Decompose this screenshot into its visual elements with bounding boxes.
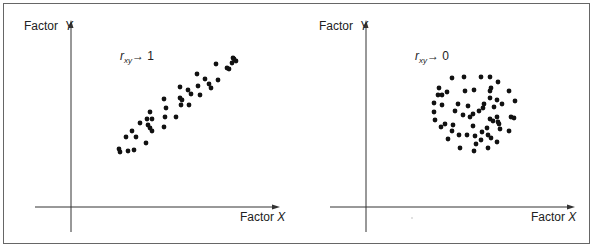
data-point (457, 133, 462, 138)
data-point (495, 98, 500, 103)
data-point (164, 106, 169, 111)
data-point (446, 137, 451, 142)
data-point (227, 67, 232, 72)
data-point (488, 96, 493, 101)
data-point (138, 121, 143, 126)
data-point (451, 123, 456, 128)
data-point (473, 134, 478, 139)
y-axis-label-text: Factor (319, 19, 353, 33)
data-point (443, 122, 448, 127)
data-point (472, 88, 477, 93)
data-point (179, 103, 184, 108)
corr-subscript: xy (419, 56, 427, 65)
data-point (453, 109, 458, 114)
right-correlation-label: rxy→ 0 (415, 49, 449, 65)
data-point (117, 147, 122, 152)
data-point (145, 117, 150, 122)
y-axis-label-text: Factor (24, 19, 58, 33)
data-point (437, 86, 442, 91)
data-point (432, 110, 437, 115)
stray-speck (411, 217, 413, 219)
data-point (512, 116, 517, 121)
data-point (232, 57, 237, 62)
data-point (198, 93, 203, 98)
data-point (178, 85, 183, 90)
data-point (474, 142, 479, 147)
data-point (150, 117, 155, 122)
data-point (130, 129, 135, 134)
data-point (174, 115, 179, 120)
right-panel (330, 20, 575, 232)
left-panel (35, 20, 280, 232)
arrow-right-icon: → (132, 49, 144, 63)
right-x-axis-arrow-icon (567, 205, 575, 210)
data-point (180, 98, 185, 103)
arrow-right-icon: → (427, 49, 439, 63)
data-point (498, 127, 503, 132)
data-point (500, 102, 505, 107)
data-point (195, 72, 200, 77)
data-point (134, 135, 139, 140)
left-x-axis-label: Factor X (240, 210, 285, 224)
right-x-axis-label: Factor X (531, 210, 576, 224)
left-scatter-points (117, 56, 239, 155)
data-point (481, 106, 486, 111)
data-point (479, 75, 484, 80)
data-point (432, 101, 437, 106)
data-point (513, 99, 518, 104)
data-point (485, 126, 490, 131)
data-point (203, 77, 208, 82)
data-point (482, 102, 487, 107)
data-point (216, 78, 221, 83)
data-point (495, 140, 500, 145)
data-point (440, 93, 445, 98)
data-point (507, 129, 512, 134)
left-correlation-label: rxy→ 1 (120, 49, 154, 65)
data-point (144, 141, 149, 146)
data-point (488, 75, 493, 80)
x-axis-label-text: Factor (531, 210, 565, 224)
x-axis-label-text: Factor (240, 210, 274, 224)
data-point (150, 129, 155, 134)
data-point (124, 135, 129, 140)
right-scatter-points (432, 75, 518, 154)
data-point (189, 92, 194, 97)
data-point (496, 80, 501, 85)
data-point (495, 115, 500, 120)
left-x-axis-arrow-icon (272, 205, 280, 210)
data-point (486, 146, 491, 151)
data-point (450, 129, 455, 134)
data-point (466, 104, 471, 109)
data-point (471, 112, 476, 117)
data-point (433, 118, 438, 123)
data-point (196, 84, 201, 89)
data-point (186, 88, 191, 93)
data-point (132, 148, 137, 153)
x-axis-variable: X (277, 210, 285, 224)
data-point (479, 138, 484, 143)
data-point (489, 136, 494, 141)
y-axis-variable: Y (360, 19, 368, 33)
corr-value: 0 (442, 49, 449, 63)
x-axis-variable: X (568, 210, 576, 224)
data-point (497, 122, 502, 127)
data-point (477, 109, 482, 114)
data-point (187, 103, 192, 108)
data-point (488, 89, 493, 94)
data-point (458, 146, 463, 151)
data-point (461, 113, 466, 118)
data-point (440, 103, 445, 108)
data-point (480, 130, 485, 135)
data-point (465, 133, 470, 138)
left-y-axis-label: Factor Y (24, 19, 73, 33)
data-point (456, 102, 461, 107)
data-point (445, 90, 450, 95)
right-y-axis-label: Factor Y (319, 19, 368, 33)
data-point (209, 86, 214, 91)
corr-value: 1 (147, 49, 154, 63)
data-point (162, 97, 167, 102)
data-point (148, 110, 153, 115)
data-point (471, 124, 476, 129)
corr-subscript: xy (124, 56, 132, 65)
data-point (462, 75, 467, 80)
